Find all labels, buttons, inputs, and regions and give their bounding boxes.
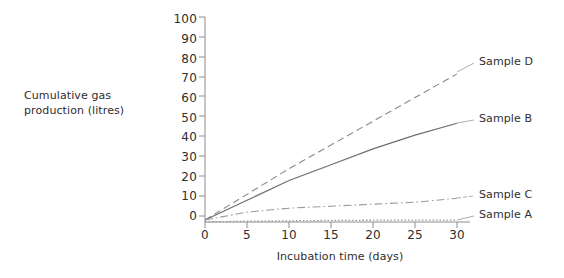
x-tick-marks — [205, 222, 457, 228]
leader-line-sample-a — [457, 216, 474, 220]
y-tick-marks — [199, 17, 205, 216]
series-label-sample-a: Sample A — [479, 208, 532, 221]
series-line-sample-c — [205, 198, 457, 220]
series-line-sample-b — [205, 123, 457, 220]
leader-line-sample-c — [457, 196, 474, 198]
series-label-sample-b: Sample B — [479, 112, 532, 125]
series-label-sample-d: Sample D — [479, 55, 533, 68]
leader-line-sample-d — [457, 63, 474, 72]
leader-line-sample-b — [457, 120, 474, 123]
series-label-sample-c: Sample C — [479, 188, 532, 201]
gas-production-line-chart: Cumulative gas production (litres) 100 9… — [0, 0, 564, 278]
series-line-sample-d — [205, 74, 457, 220]
plot-area — [0, 0, 564, 278]
